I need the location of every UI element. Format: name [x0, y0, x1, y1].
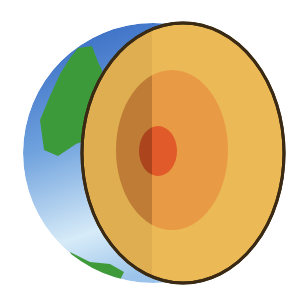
earth-cutaway-figure: [0, 0, 305, 305]
cutaway-face: [82, 23, 284, 283]
earth-diagram: [0, 0, 305, 305]
